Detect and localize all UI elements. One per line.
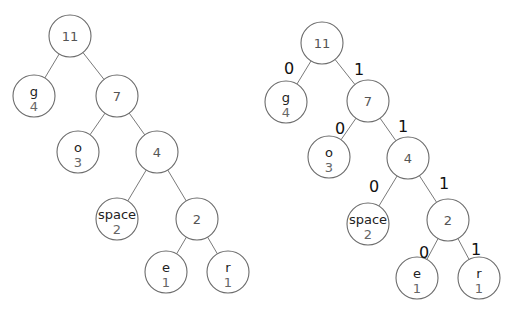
leaf-node-o: o3 <box>57 131 99 173</box>
edge-n11-n7 <box>83 53 104 80</box>
edge-n7-n4 <box>129 113 145 135</box>
internal-node-4: 4 <box>136 131 178 173</box>
internal-node-7: 7 <box>347 80 389 122</box>
node-weight: 11 <box>314 36 331 51</box>
node-weight: 4 <box>404 151 412 166</box>
leaf-node-g: g4 <box>13 75 55 117</box>
leaf-node-g: g4 <box>265 81 307 123</box>
edge-n11-g <box>45 54 59 78</box>
node-symbol: e <box>162 260 170 275</box>
node-weight: 3 <box>74 155 82 170</box>
node-symbol: r <box>476 266 482 281</box>
bit-label: 0 <box>335 119 345 138</box>
internal-node-11: 11 <box>301 22 343 64</box>
internal-node-7: 7 <box>96 75 138 117</box>
leaf-node-e: e1 <box>145 251 187 293</box>
bit-label: 0 <box>369 177 379 196</box>
bit-label: 0 <box>284 59 294 78</box>
leaf-node-r: r1 <box>458 257 500 299</box>
bit-label: 1 <box>471 240 481 259</box>
node-weight: 1 <box>413 281 421 296</box>
node-weight: 3 <box>325 160 333 175</box>
node-weight: 7 <box>113 89 121 104</box>
internal-node-4: 4 <box>387 137 429 179</box>
leaf-node-space: space2 <box>96 198 138 240</box>
node-weight: 1 <box>162 275 170 290</box>
leaf-node-o: o3 <box>308 136 350 178</box>
node-weight: 2 <box>444 213 452 228</box>
node-weight: 1 <box>475 281 483 296</box>
node-weight: 4 <box>30 99 38 114</box>
internal-node-2: 2 <box>176 198 218 240</box>
bit-label: 1 <box>354 60 364 79</box>
bit-label: 1 <box>398 117 408 136</box>
node-symbol: g <box>30 84 38 99</box>
edge-n11-n7 <box>335 59 355 84</box>
node-weight: 4 <box>153 145 161 160</box>
node-symbol: space <box>349 212 387 227</box>
node-weight: 7 <box>364 94 372 109</box>
node-weight: 11 <box>62 29 79 44</box>
node-symbol: g <box>282 90 290 105</box>
edge-n2-r <box>458 239 469 260</box>
node-symbol: space <box>98 207 136 222</box>
edge-n11-g <box>297 61 311 84</box>
internal-node-11: 11 <box>49 15 91 57</box>
edge-n4-n2 <box>168 170 186 201</box>
node-symbol: r <box>225 260 231 275</box>
edge-n4-space <box>379 176 397 206</box>
edge-n7-o <box>90 113 105 135</box>
edge-n4-n2 <box>419 176 436 203</box>
node-symbol: e <box>413 266 421 281</box>
bit-label: 1 <box>439 174 449 193</box>
leaf-node-space: space2 <box>347 203 389 245</box>
edge-n2-r <box>208 237 218 254</box>
node-weight: 4 <box>282 105 290 120</box>
edge-n7-n4 <box>380 118 396 141</box>
internal-node-2: 2 <box>427 199 469 241</box>
huffman-diagram: 11g47o34space22e1r111g47o34space22e1r1 0… <box>0 0 510 317</box>
node-symbol: o <box>74 140 82 155</box>
node-weight: 2 <box>113 222 121 237</box>
node-weight: 2 <box>364 227 372 242</box>
node-weight: 1 <box>224 275 232 290</box>
leaf-node-r: r1 <box>207 251 249 293</box>
edge-n4-space <box>128 170 146 201</box>
bit-label: 0 <box>419 243 429 262</box>
edge-n2-e <box>177 237 187 254</box>
node-weight: 2 <box>193 212 201 227</box>
leaf-node-e: e1 <box>396 257 438 299</box>
node-symbol: o <box>325 145 333 160</box>
